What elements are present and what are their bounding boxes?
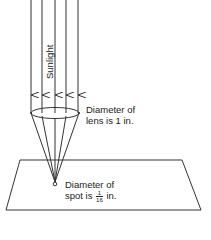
spot-fraction: 1 16: [96, 190, 103, 203]
spot-label-suffix: in.: [106, 190, 116, 201]
sunlight-label: Sunlight: [44, 45, 55, 79]
spot-label-line2: spot is 1 16 in.: [65, 190, 116, 203]
spot-label-line1: Diameter of: [65, 179, 116, 190]
converging-rays: [31, 113, 79, 182]
lens-label-line2: lens is 1 in.: [86, 115, 135, 126]
lens-label-line1: Diameter of: [86, 104, 135, 115]
lens-diameter-label: Diameter of lens is 1 in.: [86, 104, 135, 126]
fraction-numerator: 1: [96, 190, 103, 197]
fraction-denominator: 16: [96, 197, 103, 203]
spot-label-prefix: spot is: [65, 190, 92, 201]
focal-spot: [53, 182, 57, 186]
spot-diameter-label: Diameter of spot is 1 16 in.: [65, 179, 116, 203]
